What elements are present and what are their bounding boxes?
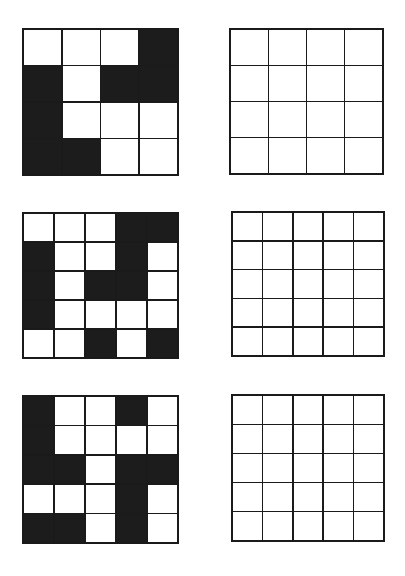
empty-cell bbox=[24, 485, 53, 513]
empty-cell bbox=[55, 397, 84, 425]
puzzle-2-answer-grid bbox=[231, 211, 385, 357]
empty-cell[interactable] bbox=[345, 138, 382, 173]
empty-cell[interactable] bbox=[269, 102, 306, 137]
empty-cell[interactable] bbox=[324, 328, 353, 355]
empty-cell bbox=[86, 426, 115, 454]
empty-cell[interactable] bbox=[233, 512, 262, 540]
empty-cell[interactable] bbox=[354, 425, 383, 453]
empty-cell[interactable] bbox=[324, 512, 353, 540]
empty-cell[interactable] bbox=[231, 138, 268, 173]
empty-cell[interactable] bbox=[294, 242, 323, 269]
empty-cell[interactable] bbox=[263, 425, 292, 453]
filled-cell bbox=[117, 514, 146, 542]
empty-cell[interactable] bbox=[233, 242, 262, 269]
empty-cell[interactable] bbox=[324, 396, 353, 424]
empty-cell[interactable] bbox=[263, 396, 292, 424]
empty-cell[interactable] bbox=[307, 102, 344, 137]
empty-cell[interactable] bbox=[233, 396, 262, 424]
empty-cell[interactable] bbox=[324, 483, 353, 511]
empty-cell[interactable] bbox=[263, 242, 292, 269]
empty-cell[interactable] bbox=[324, 299, 353, 326]
empty-cell[interactable] bbox=[233, 454, 262, 482]
empty-cell[interactable] bbox=[354, 483, 383, 511]
empty-cell[interactable] bbox=[307, 30, 344, 65]
empty-cell[interactable] bbox=[354, 242, 383, 269]
empty-cell[interactable] bbox=[324, 242, 353, 269]
empty-cell[interactable] bbox=[324, 213, 353, 240]
empty-cell[interactable] bbox=[263, 328, 292, 355]
filled-cell bbox=[117, 485, 146, 513]
empty-cell[interactable] bbox=[231, 102, 268, 137]
empty-cell[interactable] bbox=[231, 30, 268, 65]
filled-cell bbox=[86, 330, 115, 357]
filled-cell bbox=[24, 103, 61, 138]
empty-cell[interactable] bbox=[354, 213, 383, 240]
puzzle-3-answer-grid bbox=[231, 394, 385, 542]
empty-cell bbox=[24, 30, 61, 65]
empty-cell[interactable] bbox=[263, 299, 292, 326]
empty-cell[interactable] bbox=[294, 299, 323, 326]
empty-cell[interactable] bbox=[294, 454, 323, 482]
empty-cell[interactable] bbox=[294, 328, 323, 355]
filled-cell bbox=[63, 139, 100, 174]
empty-cell bbox=[24, 214, 53, 241]
empty-cell[interactable] bbox=[294, 270, 323, 297]
filled-cell bbox=[148, 214, 177, 241]
empty-cell[interactable] bbox=[231, 66, 268, 101]
empty-cell[interactable] bbox=[294, 213, 323, 240]
empty-cell[interactable] bbox=[263, 270, 292, 297]
empty-cell bbox=[55, 301, 84, 328]
filled-cell bbox=[24, 139, 61, 174]
empty-cell[interactable] bbox=[233, 299, 262, 326]
puzzle-2-pattern-grid bbox=[22, 212, 179, 359]
empty-cell[interactable] bbox=[354, 328, 383, 355]
empty-cell[interactable] bbox=[263, 483, 292, 511]
empty-cell bbox=[86, 485, 115, 513]
empty-cell[interactable] bbox=[354, 299, 383, 326]
empty-cell[interactable] bbox=[294, 425, 323, 453]
empty-cell[interactable] bbox=[233, 213, 262, 240]
empty-cell[interactable] bbox=[263, 512, 292, 540]
empty-cell[interactable] bbox=[269, 66, 306, 101]
filled-cell bbox=[24, 66, 61, 101]
empty-cell[interactable] bbox=[233, 328, 262, 355]
empty-cell[interactable] bbox=[294, 396, 323, 424]
empty-cell bbox=[148, 397, 177, 425]
filled-cell bbox=[24, 301, 53, 328]
empty-cell[interactable] bbox=[324, 454, 353, 482]
empty-cell[interactable] bbox=[263, 454, 292, 482]
empty-cell[interactable] bbox=[354, 396, 383, 424]
empty-cell[interactable] bbox=[307, 138, 344, 173]
empty-cell bbox=[86, 243, 115, 270]
empty-cell[interactable] bbox=[233, 425, 262, 453]
empty-cell[interactable] bbox=[294, 512, 323, 540]
empty-cell bbox=[148, 426, 177, 454]
empty-cell[interactable] bbox=[354, 270, 383, 297]
empty-cell[interactable] bbox=[345, 30, 382, 65]
empty-cell[interactable] bbox=[294, 483, 323, 511]
filled-cell bbox=[140, 30, 177, 65]
empty-cell[interactable] bbox=[324, 425, 353, 453]
filled-cell bbox=[55, 514, 84, 542]
empty-cell[interactable] bbox=[345, 66, 382, 101]
empty-cell[interactable] bbox=[263, 213, 292, 240]
empty-cell[interactable] bbox=[354, 454, 383, 482]
empty-cell[interactable] bbox=[354, 512, 383, 540]
empty-cell[interactable] bbox=[269, 138, 306, 173]
filled-cell bbox=[140, 66, 177, 101]
empty-cell[interactable] bbox=[233, 483, 262, 511]
filled-cell bbox=[117, 214, 146, 241]
empty-cell bbox=[55, 426, 84, 454]
empty-cell[interactable] bbox=[307, 66, 344, 101]
empty-cell bbox=[86, 214, 115, 241]
empty-cell[interactable] bbox=[345, 102, 382, 137]
empty-cell bbox=[101, 30, 138, 65]
empty-cell bbox=[117, 426, 146, 454]
empty-cell bbox=[63, 66, 100, 101]
empty-cell bbox=[101, 103, 138, 138]
empty-cell[interactable] bbox=[324, 270, 353, 297]
empty-cell bbox=[140, 103, 177, 138]
filled-cell bbox=[24, 272, 53, 299]
empty-cell[interactable] bbox=[233, 270, 262, 297]
empty-cell[interactable] bbox=[269, 30, 306, 65]
